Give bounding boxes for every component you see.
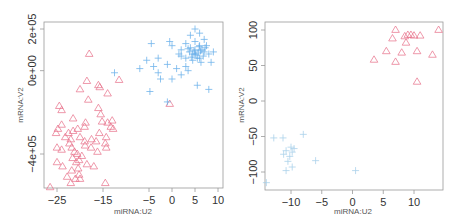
triangle-marker	[96, 129, 104, 135]
triangle-marker	[95, 81, 103, 87]
y-axis-label: mRNA:V2	[16, 87, 25, 123]
plus-marker	[192, 38, 199, 45]
plus-marker	[284, 158, 291, 165]
triangle-marker	[102, 133, 110, 139]
x-tick-label: −10	[282, 196, 301, 208]
triangle-marker	[95, 104, 103, 110]
y-axis-ticks: 2e+050e+00−4e+05	[26, 14, 44, 173]
plus-marker	[280, 134, 287, 141]
plus-marker	[155, 55, 162, 62]
triangle-marker	[115, 76, 123, 82]
x-tick-label: −15	[94, 194, 113, 206]
triangle-marker	[435, 26, 443, 32]
plus-marker	[208, 59, 215, 66]
triangle-marker	[94, 148, 102, 154]
y-axis-label: mRNA:V2	[237, 87, 246, 123]
plus-marker	[178, 71, 185, 78]
triangle-marker	[76, 133, 84, 139]
plus-marker	[164, 61, 171, 68]
plus-marker	[143, 57, 150, 64]
triangle-marker	[413, 78, 421, 84]
triangle-marker	[90, 163, 98, 169]
plus-marker	[197, 59, 204, 66]
plus-marker	[205, 86, 212, 93]
triangle-marker	[74, 165, 82, 171]
triangle-marker	[68, 167, 76, 173]
triangle-marker	[398, 49, 406, 55]
data-points	[263, 26, 443, 186]
plus-marker	[164, 98, 171, 105]
y-tick-label: 0	[247, 98, 259, 104]
plus-marker	[192, 26, 199, 33]
scatter-plots: −25−15−50510 2e+050e+00−4e+05 miRNA:U2 m…	[0, 0, 460, 224]
plus-marker	[157, 76, 164, 83]
plus-marker	[291, 145, 298, 152]
triangle-marker	[52, 129, 60, 135]
triangle-marker	[97, 110, 105, 116]
plus-marker	[173, 65, 180, 72]
triangle-marker	[67, 179, 75, 185]
plus-marker	[187, 32, 194, 39]
triangle-marker	[389, 35, 397, 41]
y-tick-label: 100	[247, 21, 259, 39]
plus-marker	[300, 131, 307, 138]
triangle-marker	[413, 47, 421, 53]
triangle-marker	[83, 77, 91, 83]
x-axis-label: miRNA:U2	[334, 207, 372, 216]
triangle-marker	[109, 125, 117, 131]
triangle-marker	[102, 179, 110, 185]
x-axis-label: miRNA:U2	[114, 207, 152, 216]
plus-marker	[136, 65, 143, 72]
plus-marker	[196, 30, 203, 37]
x-tick-label: 5	[192, 194, 198, 206]
y-tick-label: −100	[247, 160, 259, 185]
triangle-marker	[58, 106, 66, 112]
x-axis-ticks: −10−50510	[282, 190, 420, 208]
triangle-marker	[63, 173, 71, 179]
plus-marker	[312, 157, 319, 164]
plus-marker	[288, 144, 295, 151]
plus-marker	[148, 40, 155, 47]
triangle-marker	[69, 115, 77, 121]
triangle-marker	[104, 90, 112, 96]
y-tick-label: 0e+00	[26, 55, 38, 86]
plus-marker	[194, 82, 201, 89]
triangle-marker	[102, 144, 110, 150]
y-tick-label: −4e+05	[26, 135, 38, 172]
x-tick-label: −5	[143, 194, 156, 206]
plus-marker	[270, 134, 277, 141]
triangle-marker	[76, 85, 84, 91]
plus-marker	[150, 63, 157, 70]
left-scatter-plot: −25−15−50510 2e+050e+00−4e+05 miRNA:U2 m…	[16, 14, 224, 216]
triangle-marker	[81, 123, 89, 129]
triangle-marker	[429, 51, 437, 57]
plus-marker	[352, 167, 359, 174]
triangle-marker	[84, 96, 92, 102]
triangle-marker	[402, 39, 410, 45]
triangle-marker	[383, 47, 391, 53]
triangle-marker	[68, 144, 76, 150]
triangle-marker	[85, 50, 93, 56]
triangle-marker	[46, 183, 54, 189]
triangle-marker	[83, 160, 91, 166]
y-axis-ticks: 100500−50−100	[247, 21, 265, 185]
right-scatter-plot: −10−50510 100500−50−100 miRNA:U2 mRNA:V2	[237, 21, 443, 216]
plus-marker	[111, 69, 118, 76]
x-tick-label: 0	[169, 194, 175, 206]
y-tick-label: −50	[247, 127, 259, 146]
x-axis-ticks: −25−15−50510	[48, 188, 224, 206]
y-tick-label: 50	[247, 59, 259, 71]
plot-frame	[265, 22, 443, 190]
plus-marker	[263, 179, 270, 186]
x-tick-label: −5	[315, 196, 328, 208]
y-tick-label: 2e+05	[26, 14, 38, 45]
plus-marker	[283, 167, 290, 174]
x-tick-label: 5	[380, 196, 386, 208]
plus-marker	[289, 164, 296, 171]
plus-marker	[155, 69, 162, 76]
plus-marker	[201, 36, 208, 43]
triangle-marker	[392, 26, 400, 32]
triangle-marker	[53, 158, 61, 164]
x-tick-label: 10	[212, 194, 224, 206]
triangle-marker	[370, 56, 378, 62]
